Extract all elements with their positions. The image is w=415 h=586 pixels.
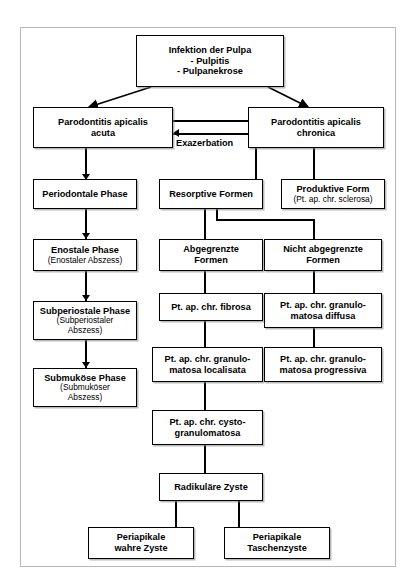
connector-cysto-to-radikulaere	[204, 445, 206, 473]
node-nicht-abgegrenzte-formen[interactable]: Nicht abgegrenzte Formen	[264, 239, 382, 271]
node-abgegrenzte-title: Abgegrenzte Formen	[183, 244, 239, 265]
node-granulomatosa-progressiva[interactable]: Pt. ap. chr. granulo- matosa progressiva	[264, 347, 382, 382]
node-nicht-abgegrenzte-title: Nicht abgegrenzte Formen	[283, 244, 363, 265]
diagram-canvas: Exazerbation Infektion der Pu	[0, 0, 415, 586]
connector-abgegrenzte-to-fibrosa	[204, 271, 206, 293]
node-produktive-subtitle: (Pt. ap. chr. sclerosa)	[293, 195, 372, 205]
node-infektion-title: Infektion der Pulpa	[169, 45, 252, 56]
connector-chronica-down-left	[255, 148, 257, 179]
connector-fibrosa-to-localisata	[204, 321, 206, 347]
node-taschenzyste-title: Periapikale Taschenzyste	[247, 532, 307, 553]
node-subperiostale-phase[interactable]: Subperiostale Phase (Subperiostaler Absz…	[33, 301, 137, 340]
connector-localisata-to-cysto	[204, 382, 206, 410]
node-infektion-sublist: - Pulpitis - Pulpanekrose	[177, 56, 243, 77]
connector-diffusa-to-progressiva	[313, 328, 315, 347]
node-abgegrenzte-formen[interactable]: Abgegrenzte Formen	[159, 239, 263, 271]
node-progressiva-title: Pt. ap. chr. granulo- matosa progressiva	[280, 354, 367, 375]
connector-nicht-abgegrenzte-to-diffusa	[313, 271, 315, 293]
node-cysto-title: Pt. ap. chr. cysto- granulomatosa	[169, 417, 245, 438]
node-pt-ap-chr-fibrosa[interactable]: Pt. ap. chr. fibrosa	[159, 293, 263, 321]
node-localisata-title: Pt. ap. chr. granulo- matosa localisata	[165, 354, 251, 375]
node-infektion-der-pulpa[interactable]: Infektion der Pulpa - Pulpitis - Pulpane…	[136, 35, 284, 87]
node-fibrosa-title: Pt. ap. chr. fibrosa	[171, 302, 251, 313]
node-produktive-title: Produktive Form	[296, 184, 369, 195]
connector-chronica-to-acuta	[173, 133, 256, 135]
connector-acuta-to-chronica	[173, 120, 256, 122]
node-radikulaere-title: Radikuläre Zyste	[174, 482, 248, 493]
node-enostale-phase[interactable]: Enostale Phase (Enostaler Abszess)	[33, 239, 137, 271]
node-chronica-title: Parodontitis apicalis chronica	[271, 117, 361, 138]
node-cysto-granulomatosa[interactable]: Pt. ap. chr. cysto- granulomatosa	[152, 410, 263, 445]
node-radikulaere-zyste[interactable]: Radikuläre Zyste	[159, 473, 263, 501]
node-periodontale-phase[interactable]: Periodontale Phase	[33, 179, 137, 209]
node-subperiostale-subtitle: (Subperiostaler Abszess)	[57, 316, 114, 335]
node-wahre-zyste-title: Periapikale wahre Zyste	[114, 532, 167, 553]
connector-radikulaere-down-right	[238, 501, 240, 527]
connector-chronica-down-right	[313, 148, 315, 179]
node-submukoese-phase[interactable]: Submuköse Phase (Submuköser Abszess)	[33, 368, 137, 407]
node-submukoese-subtitle: (Submuköser Abszess)	[60, 383, 110, 402]
exazerbation-label: Exazerbation	[175, 138, 234, 148]
connector-radikulaere-down-left	[175, 501, 177, 527]
node-acuta-title: Parodontitis apicalis acuta	[58, 117, 148, 138]
node-periodontale-title: Periodontale Phase	[42, 189, 127, 200]
node-periapikale-wahre-zyste[interactable]: Periapikale wahre Zyste	[88, 527, 194, 559]
arrowhead-to-acuta	[173, 129, 179, 137]
connector-resorptive-down	[204, 209, 206, 239]
node-produktive-form[interactable]: Produktive Form (Pt. ap. chr. sclerosa)	[281, 179, 385, 209]
node-diffusa-title: Pt. ap. chr. granulo- matosa diffusa	[280, 300, 366, 321]
node-resorptive-formen[interactable]: Resorptive Formen	[159, 179, 263, 209]
node-enostale-subtitle: (Enostaler Abszess)	[48, 256, 122, 266]
node-granulomatosa-localisata[interactable]: Pt. ap. chr. granulo- matosa localisata	[152, 347, 263, 382]
node-periapikale-taschenzyste[interactable]: Periapikale Taschenzyste	[224, 527, 330, 559]
connector-resorptive-branch-horizontal	[216, 219, 314, 221]
node-parodontitis-apicalis-acuta[interactable]: Parodontitis apicalis acuta	[33, 107, 173, 148]
node-parodontitis-apicalis-chronica[interactable]: Parodontitis apicalis chronica	[248, 107, 384, 148]
node-enostale-title: Enostale Phase	[51, 245, 119, 256]
connector-branch-to-nicht-abgegrenzte	[313, 219, 315, 239]
node-granulomatosa-diffusa[interactable]: Pt. ap. chr. granulo- matosa diffusa	[264, 293, 382, 328]
node-resorptive-title: Resorptive Formen	[169, 189, 253, 200]
